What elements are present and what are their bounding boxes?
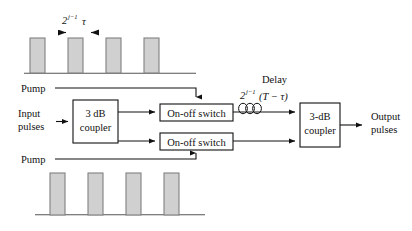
input-pulses-label-line1: Input <box>18 108 40 119</box>
delay-title-label: Delay <box>262 74 288 85</box>
top-pump-pulse-train <box>24 38 196 73</box>
top-pulse-4 <box>144 38 159 73</box>
figure-canvas: 2 j−1 τ Pump Input pulses 3 dB coupler O… <box>0 0 412 231</box>
switch-upper-label: On-off switch <box>167 108 226 119</box>
top-pulse-2 <box>68 38 83 73</box>
switch-lower-label: On-off switch <box>167 137 226 148</box>
delay-exponent: j−1 <box>245 88 256 95</box>
delay-tail: (T − τ) <box>259 91 288 103</box>
pump-top-wire <box>55 88 196 97</box>
coupler-right-block: 3-dB coupler <box>300 103 340 147</box>
coupler-left-label-line2: coupler <box>80 122 112 133</box>
bottom-pulse-3 <box>126 173 141 215</box>
bottom-pulse-4 <box>164 173 179 215</box>
bottom-pulse-2 <box>88 173 103 215</box>
pump-bottom-label: Pump <box>21 154 46 165</box>
coupler-left-block: 3 dB coupler <box>73 100 118 143</box>
coupler-left-label-line1: 3 dB <box>85 108 105 119</box>
delay-coil-icon <box>233 103 295 113</box>
bottom-pump-pulse-train <box>35 173 205 215</box>
coupler-right-label-line2: coupler <box>304 125 336 136</box>
pulse-spacing-annotation: 2 j−1 τ <box>58 13 99 33</box>
pump-bottom-wire <box>55 153 196 159</box>
switch-lower-block: On-off switch <box>160 133 233 150</box>
pump-bottom-path <box>55 153 196 159</box>
output-pulses-label-line2: pulses <box>371 124 397 135</box>
bottom-pulse-1 <box>50 173 65 215</box>
switch-upper-block: On-off switch <box>160 104 233 121</box>
top-pulse-3 <box>106 38 121 73</box>
input-pulses-label-line2: pulses <box>18 121 44 132</box>
coupler-right-label-line1: 3-dB <box>310 111 331 122</box>
pulse-spacing-exponent: j−1 <box>67 13 78 20</box>
pump-top-label: Pump <box>21 83 46 94</box>
top-pulse-1 <box>30 38 45 73</box>
pulse-spacing-tail: τ <box>82 16 87 27</box>
output-pulses-label-line1: Output <box>371 111 400 122</box>
pump-top-path <box>55 88 196 97</box>
diagram-svg: 2 j−1 τ Pump Input pulses 3 dB coupler O… <box>0 0 412 231</box>
delay-annotation: Delay 2 j−1 (T − τ) <box>240 74 288 103</box>
